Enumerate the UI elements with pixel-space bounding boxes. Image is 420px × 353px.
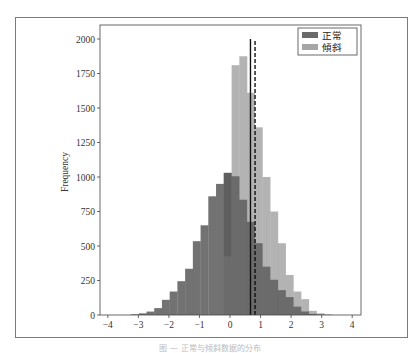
histogram-bar (162, 300, 170, 315)
y-axis-label: Frequency (60, 152, 70, 192)
y-tick-label: 0 (90, 311, 95, 321)
x-tick-label: −3 (133, 320, 143, 330)
y-tick-label: 1500 (76, 104, 95, 114)
histogram-bar (208, 196, 216, 315)
y-tick-label: 1750 (76, 69, 95, 79)
x-axis: −4−3−2−101234 (103, 315, 355, 330)
histogram-bar (154, 308, 162, 315)
x-tick-label: 4 (350, 320, 355, 330)
x-tick-label: 0 (228, 320, 233, 330)
x-tick-label: −4 (103, 320, 113, 330)
histogram-bar (185, 269, 193, 315)
histogram-bar-overlap (301, 312, 309, 315)
histogram-chart: −4−3−2−101234 02505007501000125015001750… (0, 0, 420, 353)
figure-caption: 图 — 正常与倾斜数据的分布 (0, 342, 420, 353)
legend-label-normal: 正常 (322, 30, 342, 41)
histogram-bar-overlap (270, 280, 278, 315)
histogram-bar-overlap (286, 297, 294, 315)
legend-swatch-normal (302, 32, 318, 38)
x-tick-label: −2 (164, 320, 174, 330)
legend: 正常 傾斜 (298, 28, 357, 55)
y-tick-label: 1250 (76, 138, 95, 148)
histogram-bar-overlap (293, 307, 301, 315)
x-tick-label: 1 (258, 320, 263, 330)
histogram-bar-overlap (255, 243, 263, 315)
histogram-bar-overlap (262, 267, 270, 315)
y-tick-label: 750 (81, 207, 96, 217)
histogram-bar (216, 184, 224, 315)
x-tick-label: 3 (319, 320, 324, 330)
histogram-bar-overlap (224, 173, 232, 315)
y-tick-label: 250 (81, 276, 96, 286)
skewed-bars (224, 56, 333, 315)
legend-swatch-skewed (302, 44, 318, 50)
y-axis: 025050075010001250150017502000 (76, 35, 100, 321)
histogram-bar (193, 241, 201, 315)
histogram-bar (177, 281, 185, 315)
histogram-bar-overlap (231, 176, 239, 315)
x-tick-label: 2 (289, 320, 294, 330)
y-tick-label: 500 (81, 242, 96, 252)
y-tick-label: 2000 (76, 35, 95, 45)
x-tick-label: −1 (194, 320, 204, 330)
histogram-bar-overlap (278, 290, 286, 315)
y-tick-label: 1000 (76, 173, 95, 183)
legend-label-skewed: 傾斜 (322, 42, 342, 53)
histogram-bar (170, 292, 178, 315)
histogram-bar (146, 312, 154, 315)
histogram-bar (201, 225, 209, 315)
histogram-bar-overlap (239, 200, 247, 315)
